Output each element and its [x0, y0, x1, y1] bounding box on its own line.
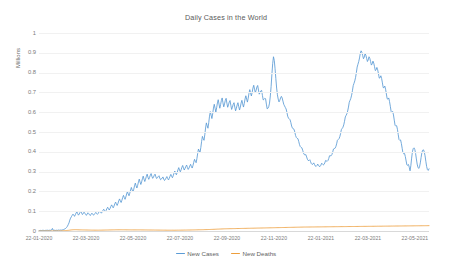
- y-tick-label: 0.1: [10, 208, 36, 214]
- gridline: [39, 92, 429, 93]
- gridline: [39, 172, 429, 173]
- x-tick-label: 22-11-2020: [261, 235, 287, 241]
- x-axis-tick-labels: 22-01-202022-03-202022-05-202022-07-2020…: [39, 235, 429, 247]
- legend-swatch: [176, 253, 185, 255]
- y-tick-label: 0.6: [10, 109, 36, 115]
- x-tick-label: 22-03-2020: [73, 235, 100, 241]
- x-tick-label: 22-05-2020: [120, 235, 147, 241]
- y-tick-label: 0.3: [10, 168, 36, 174]
- x-tick-label: 22-03-2021: [355, 235, 382, 241]
- y-tick-label: 0.4: [10, 148, 36, 154]
- gridline: [39, 231, 429, 232]
- y-tick-label: 0.7: [10, 89, 36, 95]
- gridline: [39, 53, 429, 54]
- chart-legend: New CasesNew Deaths: [0, 250, 452, 257]
- gridline: [39, 33, 429, 34]
- y-tick-label: 0.5: [10, 129, 36, 135]
- legend-swatch: [231, 253, 240, 255]
- x-tick-label: 22-05-2021: [402, 235, 429, 241]
- legend-label: New Cases: [187, 250, 219, 257]
- gridline: [39, 132, 429, 133]
- x-tick-label: 22-07-2020: [167, 235, 194, 241]
- y-axis-tick-labels: 00.10.20.30.40.50.60.70.80.91: [8, 33, 36, 231]
- legend-entry[interactable]: New Cases: [176, 250, 219, 257]
- x-tick-label: 22-01-2021: [308, 235, 335, 241]
- chart-title: Daily Cases in the World: [0, 13, 452, 22]
- y-tick-label: 1: [10, 30, 36, 36]
- legend-label: New Deaths: [242, 250, 276, 257]
- x-tick-label: 22-01-2020: [26, 235, 53, 241]
- y-tick-label: 0.2: [10, 188, 36, 194]
- y-tick-label: 0.8: [10, 69, 36, 75]
- y-tick-label: 0.9: [10, 49, 36, 55]
- gridline: [39, 191, 429, 192]
- y-tick-label: 0: [10, 228, 36, 234]
- gridline: [39, 112, 429, 113]
- gridline: [39, 73, 429, 74]
- chart-container: Daily Cases in the World Millions 00.10.…: [0, 0, 452, 271]
- plot-area: [39, 33, 429, 231]
- series-line-new-cases: [39, 51, 429, 231]
- gridline: [39, 152, 429, 153]
- legend-entry[interactable]: New Deaths: [231, 250, 276, 257]
- x-tick-label: 22-09-2020: [214, 235, 241, 241]
- gridline: [39, 211, 429, 212]
